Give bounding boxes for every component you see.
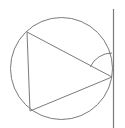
geometry-diagram [0,0,125,128]
angle-arc [90,53,112,67]
inscribed-triangle [27,32,112,111]
circle [11,18,113,120]
